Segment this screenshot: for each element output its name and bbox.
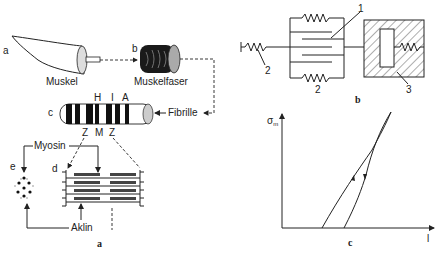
line-label-z1: Z — [82, 127, 88, 138]
hatched-block — [364, 20, 424, 77]
band-label-a: A — [122, 92, 129, 103]
panel-c: σm l c — [267, 112, 434, 248]
fibril-drawing — [60, 104, 153, 124]
line-label-m: M — [95, 127, 103, 138]
sub-label-d: d — [52, 163, 58, 174]
part-label-2-left: 2 — [265, 65, 271, 76]
myosin-arrow-d — [69, 146, 98, 172]
myosin-label: Myosin — [34, 140, 66, 151]
zoom-line-right — [113, 138, 140, 168]
sub-label-e: e — [10, 161, 16, 172]
part-label-3: 3 — [406, 84, 412, 95]
figure-canvas: a Muskel b Muskelfaser Fibrille c H I — [0, 0, 442, 253]
panel-c-caption: c — [348, 237, 353, 248]
muscle-label: Muskel — [46, 76, 78, 87]
y-axis-label: σm — [267, 115, 278, 127]
leader-2-left — [258, 50, 265, 65]
sub-label-a: a — [3, 45, 9, 56]
part-label-2-bottom: 2 — [315, 84, 321, 95]
x-axis-label: l — [427, 233, 429, 244]
actin-arrow-e — [27, 204, 69, 228]
unloading-direction-arrow — [363, 174, 367, 180]
sub-label-b: b — [132, 43, 138, 54]
parallel-element — [290, 14, 344, 82]
zoom-line-left — [68, 138, 84, 168]
band-label-i: I — [111, 92, 114, 103]
panel-b-caption: b — [355, 94, 361, 105]
muscle-fiber-label: Muskelfaser — [134, 76, 189, 87]
muscle-drawing — [12, 36, 100, 74]
band-label-h: H — [94, 92, 101, 103]
muscle-fiber-drawing — [140, 45, 180, 73]
spring-left — [241, 42, 290, 52]
line-label-z2: Z — [109, 127, 115, 138]
sarcomere-drawing — [62, 170, 144, 206]
unloading-curve — [344, 112, 391, 228]
fibril-label: Fibrille — [168, 107, 198, 118]
sub-label-c: c — [48, 107, 53, 118]
part-label-1: 1 — [358, 3, 364, 14]
leader-1 — [331, 12, 360, 38]
myosin-arrow-e — [24, 146, 33, 172]
panel-a-caption: a — [97, 238, 102, 249]
panel-b: 2 1 2 3 b — [241, 3, 424, 105]
loading-curve — [322, 112, 391, 228]
panel-a: a Muskel b Muskelfaser Fibrille c H I — [3, 36, 214, 249]
cross-section-drawing — [14, 176, 33, 198]
actin-label: Aklin — [71, 222, 93, 233]
